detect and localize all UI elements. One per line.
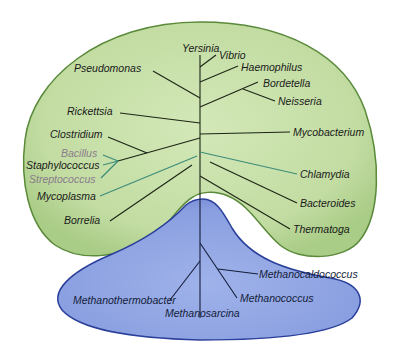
taxon-label-borrelia: Borrelia (64, 214, 100, 226)
taxon-label-chlamydia: Chlamydia (300, 168, 350, 180)
taxon-label-methanosarcina: Methanosarcina (165, 307, 240, 319)
taxon-label-thermatoga: Thermatoga (293, 223, 350, 235)
taxon-label-bacillus: Bacillus (61, 147, 98, 159)
taxon-label-bacteroides: Bacteroides (300, 197, 356, 209)
taxon-label-methanothermobacter: Methanothermobacter (73, 294, 176, 306)
taxon-label-yersinia: Yersinia (182, 42, 220, 54)
taxon-label-pseudomonas: Pseudomonas (74, 62, 142, 74)
taxon-label-staphylococcus: Staphylococcus (26, 159, 100, 171)
taxon-label-rickettsia: Rickettsia (67, 105, 113, 117)
taxon-label-mycobacterium: Mycobacterium (293, 126, 364, 138)
taxon-label-streptococcus: Streptococcus (29, 173, 96, 185)
taxon-label-bordetella: Bordetella (263, 77, 310, 89)
taxon-label-haemophilus: Haemophilus (241, 61, 303, 73)
taxon-label-vibrio: Vibrio (219, 49, 246, 61)
taxon-label-clostridium: Clostridium (50, 128, 103, 140)
taxon-label-mycoplasma: Mycoplasma (37, 190, 96, 202)
taxon-label-methanocaldococcus: Methanocaldococcus (259, 268, 358, 280)
taxon-label-methanococcus: Methanococcus (240, 292, 314, 304)
phylogenetic-tree-diagram: Yersinia Vibrio Haemophilus Bordetella N… (0, 0, 396, 343)
taxon-label-neisseria: Neisseria (278, 95, 322, 107)
